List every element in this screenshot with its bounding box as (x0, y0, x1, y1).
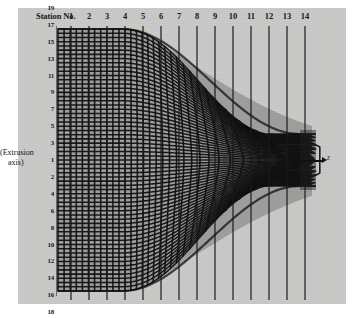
extrusion-axis-line1: (Extrusion (0, 148, 34, 157)
row-label-lower-12: 12 (38, 257, 54, 265)
station-number-7: 7 (177, 11, 181, 21)
station-number-8: 8 (195, 11, 199, 21)
station-number-4: 4 (123, 11, 127, 21)
station-number-12: 12 (265, 11, 274, 21)
station-number-3: 3 (105, 11, 109, 21)
row-label-lower-4: 4 (38, 190, 54, 198)
station-number-10: 10 (229, 11, 238, 21)
flow-direction-label: z (327, 153, 330, 162)
row-label-upper-5: 5 (38, 122, 54, 130)
station-number-1: 1 (69, 11, 73, 21)
flow-direction-arrow-icon (297, 160, 323, 162)
row-label-lower-2: 2 (38, 173, 54, 181)
extrusion-axis-line2: axis) (0, 158, 60, 168)
row-label-lower-14: 14 (38, 274, 54, 282)
row-label-upper-11: 11 (38, 72, 54, 80)
row-label-lower-16: 16 (38, 291, 54, 299)
station-number-2: 2 (87, 11, 91, 21)
row-label-upper-17: 17 (38, 21, 54, 29)
station-number-9: 9 (213, 11, 217, 21)
row-label-upper-13: 13 (38, 55, 54, 63)
station-number-13: 13 (283, 11, 292, 21)
row-label-upper-15: 15 (38, 38, 54, 46)
station-number-14: 14 (301, 11, 310, 21)
station-number-11: 11 (247, 11, 255, 21)
station-number-6: 6 (159, 11, 163, 21)
row-label-lower-6: 6 (38, 207, 54, 215)
row-label-upper-9: 9 (38, 88, 54, 96)
extrusion-grid-figure: Station No. 1234567891011121314 31292725… (0, 0, 353, 318)
station-number-5: 5 (141, 11, 145, 21)
row-label-upper-19: 19 (38, 4, 54, 12)
row-label-upper-3: 3 (38, 139, 54, 147)
extrusion-axis-annotation: (Extrusion axis) (0, 148, 60, 167)
row-label-upper-7: 7 (38, 105, 54, 113)
row-label-lower-8: 8 (38, 224, 54, 232)
row-label-lower-18: 18 (38, 308, 54, 316)
row-label-lower-10: 10 (38, 241, 54, 249)
